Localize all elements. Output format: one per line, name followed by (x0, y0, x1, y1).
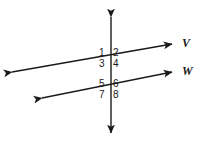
angle-label-4: 4 (113, 59, 119, 69)
line-v-stroke (12, 44, 172, 72)
angle-label-1: 1 (99, 48, 105, 58)
angle-label-2: 2 (113, 48, 119, 58)
line-label-w: W (182, 65, 193, 77)
line-w-stroke (42, 72, 172, 98)
angle-label-5: 5 (99, 79, 105, 89)
geometry-diagram-svg (0, 0, 204, 147)
angle-label-3: 3 (99, 59, 105, 69)
geometry-figure: 1 2 3 4 5 6 7 8 V W (0, 0, 204, 147)
line-label-v: V (182, 37, 190, 49)
angle-label-7: 7 (99, 90, 105, 100)
angle-label-8: 8 (113, 90, 119, 100)
angle-label-6: 6 (113, 79, 119, 89)
